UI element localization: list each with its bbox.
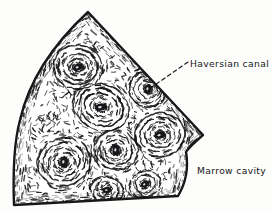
label-marrow-cavity: Marrow cavity	[197, 165, 266, 176]
specimen-body	[14, 12, 203, 205]
bone-illustration: Haversian canal Marrow cavity	[0, 0, 272, 214]
bone-diagram-canvas	[0, 0, 272, 214]
label-haversian-canal: Haversian canal	[190, 58, 269, 69]
